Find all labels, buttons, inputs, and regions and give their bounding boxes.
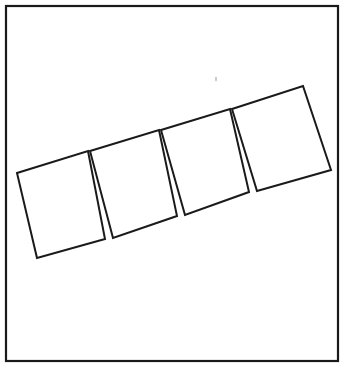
figure-root <box>0 0 350 369</box>
scan-speck-artifact <box>215 76 217 81</box>
figure-canvas <box>0 0 350 369</box>
